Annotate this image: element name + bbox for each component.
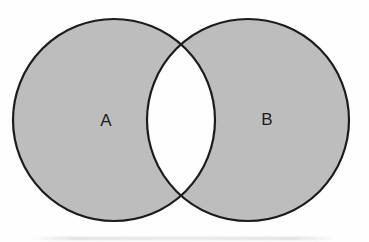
- set-a-label: A: [100, 111, 112, 130]
- venn-diagram: A B: [0, 0, 369, 242]
- shaded-symmetric-difference-region: [13, 19, 349, 221]
- set-b-label: B: [261, 110, 272, 129]
- venn-diagram-canvas: A B: [0, 0, 369, 242]
